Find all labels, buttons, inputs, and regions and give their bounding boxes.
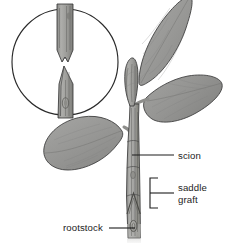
leaf-right-blade [144,75,223,122]
saddle-graft-label-line1: saddle [178,182,207,193]
saddle-graft-figure: scion saddle graft rootstock [0,0,227,243]
saddle-graft-label-line2: graft [178,194,198,205]
bud-scar [130,220,137,231]
scion-label: scion [178,150,201,161]
illustration-canvas: scion saddle graft rootstock [0,0,227,243]
rootstock-label: rootstock [63,222,103,233]
bud-scar-outline [130,220,137,231]
annotation-rootstock: rootstock [63,222,135,233]
leaf-left [44,116,123,170]
leaf-top [139,0,192,85]
scion-bud-scar [131,171,136,178]
leaf-right [144,75,223,122]
inset-scion-notch-piece [57,4,73,62]
inset-rootstock-wedge-piece [58,66,73,118]
main-stem [127,104,142,243]
leaf-left-blade [44,116,123,170]
inset-bud-scar-center [64,100,67,106]
stem-body [127,104,141,238]
scion-mark [67,13,71,20]
annotation-scion: scion [132,150,201,161]
shoot-tip [125,58,138,106]
annotation-saddle-graft: saddle graft [150,178,207,208]
inset-magnifier [12,4,118,118]
